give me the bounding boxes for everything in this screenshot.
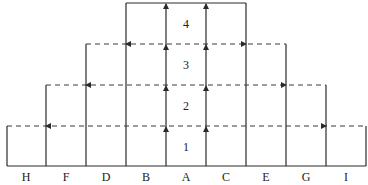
- column-label-a: A: [182, 170, 191, 184]
- level-label-2: 2: [183, 99, 189, 113]
- level-label-1: 1: [183, 140, 189, 154]
- column-labels: H F D B A C E G I: [22, 170, 348, 184]
- column-label-d: D: [102, 170, 111, 184]
- column-label-e: E: [262, 170, 269, 184]
- level-label-4: 4: [183, 17, 189, 31]
- column-label-h: H: [22, 170, 31, 184]
- column-label-c: C: [222, 170, 230, 184]
- column-label-b: B: [142, 170, 150, 184]
- level-label-3: 3: [183, 58, 189, 72]
- column-label-i: I: [344, 170, 348, 184]
- column-label-f: F: [63, 170, 70, 184]
- layer-diagram: 4 3 2 1 H F D B A C E G I: [0, 0, 368, 185]
- column-label-g: G: [302, 170, 311, 184]
- level-boundaries: [7, 44, 366, 126]
